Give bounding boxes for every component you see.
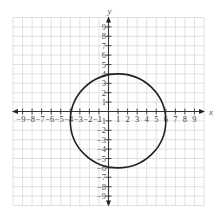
x-tick-label: 9 xyxy=(192,114,196,124)
y-axis-label: y xyxy=(107,6,112,16)
x-tick-label: 5 xyxy=(154,114,158,124)
x-tick-label: 8 xyxy=(183,114,187,124)
x-tick-label: 7 xyxy=(173,114,177,124)
x-tick-label: −6 xyxy=(45,114,54,124)
x-tick-label: −7 xyxy=(36,114,45,124)
x-tick-label: −9 xyxy=(17,114,26,124)
y-tick-label: 1 xyxy=(102,97,106,107)
x-tick-labels: −9−8−7−6−5−4−3−2−1123456789 xyxy=(17,114,197,124)
x-tick-label: 2 xyxy=(125,114,129,124)
x-tick-label: −5 xyxy=(55,114,64,124)
x-tick-label: 4 xyxy=(145,114,150,124)
x-tick-label: 1 xyxy=(116,114,120,124)
x-tick-label: −3 xyxy=(74,114,83,124)
x-tick-label: −2 xyxy=(83,114,92,124)
axes xyxy=(12,16,205,206)
x-axis-label: x xyxy=(208,107,213,117)
coordinate-plane: −9−8−7−6−5−4−3−2−1123456789 987654321−1−… xyxy=(0,0,217,211)
y-tick-label: −9 xyxy=(97,191,106,201)
x-tick-label: 3 xyxy=(135,114,139,124)
x-tick-label: −4 xyxy=(64,114,74,124)
x-tick-label: −8 xyxy=(26,114,35,124)
